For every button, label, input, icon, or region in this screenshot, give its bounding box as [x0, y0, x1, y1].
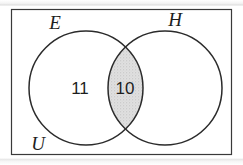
region-count-intersection: 10: [116, 79, 135, 98]
set-label-h: H: [167, 9, 183, 30]
universe-label-u: U: [31, 133, 46, 154]
region-count-e-only: 11: [71, 79, 89, 98]
set-label-e: E: [48, 12, 61, 33]
venn-canvas: E H U 11 10: [0, 0, 243, 165]
venn-diagram-figure: E H U 11 10: [0, 0, 243, 165]
